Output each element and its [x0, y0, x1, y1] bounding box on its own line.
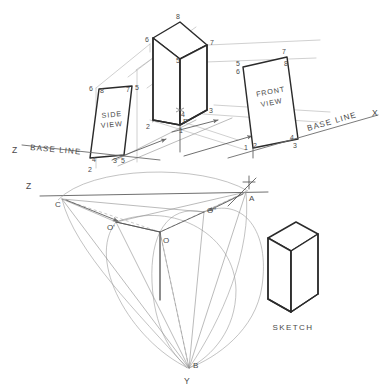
arc-c-a	[58, 172, 248, 200]
front-view-num-5: 5	[236, 60, 240, 67]
horizontal-trace-line	[40, 192, 268, 196]
arc-o1-b	[106, 222, 188, 368]
construction-point-labels: Z C A O' O O" B Y	[26, 181, 255, 386]
side-view-num-3: 3	[113, 157, 117, 164]
drawing-sheet: 8 7 6 5 4 3 2 1 P SIDE VIEW 6 8 7 5 4 3	[0, 0, 389, 391]
side-view-label-line1: SIDE	[101, 109, 122, 120]
construction-point-a: A	[249, 194, 255, 203]
x-axis-cross-mark	[243, 176, 255, 189]
side-view-num-5: 5	[135, 84, 139, 91]
side-view-label-line2: VIEW	[100, 119, 123, 130]
base-line-right-text: BASE LINE	[306, 110, 358, 133]
construction-rays	[62, 192, 246, 368]
construction-point-o-prime: O'	[107, 223, 115, 232]
prism-label-3: 3	[209, 107, 213, 114]
front-view: FRONT VIEW 5 6 7 8 1 2 4 3	[236, 48, 298, 158]
construction-base-parallelogram	[116, 212, 204, 300]
construction-point-c: C	[55, 200, 61, 209]
side-view: SIDE VIEW 6 8 7 5 4 3 5 2	[88, 84, 139, 173]
upper-projection-group: 8 7 6 5 4 3 2 1 P SIDE VIEW 6 8 7 5 4 3	[12, 13, 378, 173]
prism-label-2: 2	[146, 123, 150, 130]
prism-label-1: 1	[179, 127, 183, 134]
side-view-num-7: 7	[126, 86, 130, 93]
construction-axis-y: Y	[184, 376, 190, 386]
lower-construction-group: Z C A O' O O" B Y	[26, 172, 268, 386]
front-view-num-3: 3	[293, 142, 297, 149]
front-view-num-8: 8	[284, 60, 288, 67]
construction-point-o: O	[163, 236, 169, 245]
front-view-num-7: 7	[282, 48, 286, 55]
prism-label-7: 7	[210, 39, 214, 46]
front-view-num-6: 6	[236, 68, 240, 75]
engineering-drawing-canvas: 8 7 6 5 4 3 2 1 P SIDE VIEW 6 8 7 5 4 3	[0, 0, 389, 391]
side-view-num-2: 2	[88, 166, 92, 173]
construction-point-o-double-prime: O"	[207, 206, 216, 215]
front-view-num-1: 1	[244, 144, 248, 151]
transfer-arrows	[112, 120, 252, 160]
prism-center-point-p: P	[183, 117, 188, 126]
sketch-figure: SKETCH	[268, 222, 318, 332]
circle-right	[189, 208, 263, 368]
base-line-left-text: BASE LINE	[30, 143, 82, 156]
base-line-right-axis-x: X	[372, 108, 378, 118]
side-view-num-6: 6	[89, 85, 93, 92]
prism-label-8: 8	[176, 13, 180, 20]
front-view-num-2: 2	[253, 142, 257, 149]
sketch-label: SKETCH	[273, 323, 314, 332]
construction-axis-z: Z	[26, 181, 31, 191]
side-view-num-8: 8	[100, 87, 104, 94]
construction-point-b: B	[193, 361, 198, 370]
side-view-num-5b: 5	[121, 157, 125, 164]
prism-label-5: 5	[176, 57, 180, 64]
circle-left	[116, 215, 236, 368]
side-view-num-4: 4	[92, 156, 96, 163]
base-line-left: Z BASE LINE	[12, 143, 160, 160]
base-line-left-axis-z: Z	[12, 145, 17, 155]
prism-label-6: 6	[145, 36, 149, 43]
